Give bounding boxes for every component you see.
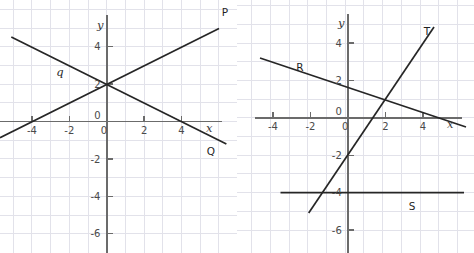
right-xtick-2: 2 — [382, 121, 388, 132]
chart-panel-right: -4 -2 0 2 4 4 2 0 -2 -4 -6 x y R T S — [237, 0, 474, 253]
left-xtick-4: 4 — [178, 125, 184, 136]
left-ytick-2: 2 — [94, 79, 100, 90]
left-ytick--2: -2 — [91, 154, 101, 165]
line-label-P: P — [222, 6, 228, 18]
figure-canvas: -4 -2 0 2 4 4 2 0 -2 -4 -6 x y P q Q — [0, 0, 474, 253]
right-ytick-2: 2 — [335, 75, 341, 86]
right-axes — [255, 14, 462, 253]
left-plot-svg: -4 -2 0 2 4 4 2 0 -2 -4 -6 x y P q Q — [0, 0, 237, 253]
right-ytick--2: -2 — [332, 150, 342, 161]
right-xtick-4: 4 — [420, 121, 426, 132]
line-R — [260, 58, 466, 127]
right-ytick-0: 0 — [335, 106, 341, 117]
right-ytick--4: -4 — [332, 187, 342, 198]
line-label-q: q — [56, 65, 63, 79]
left-ytick--4: -4 — [91, 191, 101, 202]
right-data-lines — [260, 27, 466, 213]
right-plot-svg: -4 -2 0 2 4 4 2 0 -2 -4 -6 x y R T S — [237, 0, 474, 253]
right-ytick--6: -6 — [332, 225, 342, 236]
left-ytick--6: -6 — [91, 228, 101, 239]
left-xtick--4: -4 — [27, 125, 37, 136]
line-label-T: T — [423, 25, 431, 37]
left-ytick-4: 4 — [94, 41, 100, 52]
line-T — [309, 27, 434, 213]
left-xtick-2: 2 — [141, 125, 147, 136]
left-ytick-0: 0 — [94, 110, 100, 121]
line-q-Q — [11, 37, 226, 144]
chart-panel-left: -4 -2 0 2 4 4 2 0 -2 -4 -6 x y P q Q — [0, 0, 237, 253]
left-xtick--2: -2 — [64, 125, 74, 136]
line-label-S: S — [409, 200, 416, 212]
right-xtick--4: -4 — [268, 121, 278, 132]
line-label-R: R — [296, 61, 303, 73]
right-x-axis-label: x — [447, 117, 454, 131]
right-y-axis-label: y — [337, 16, 345, 30]
left-xtick-0: 0 — [101, 125, 107, 136]
left-x-axis-label: x — [206, 121, 213, 135]
right-x-tick-labels: -4 -2 0 2 4 — [268, 121, 426, 132]
line-label-Q: Q — [207, 145, 215, 157]
right-ytick-4: 4 — [335, 38, 341, 49]
right-xtick-0: 0 — [342, 121, 348, 132]
left-y-axis-label: y — [96, 18, 104, 32]
right-xtick--2: -2 — [306, 121, 316, 132]
